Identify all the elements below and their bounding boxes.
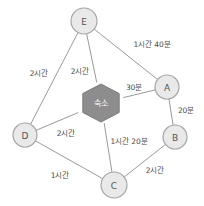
node-c[interactable]: C	[101, 172, 127, 198]
edge-weight-label-hub-a: 30분	[126, 84, 142, 92]
edge-e-d	[31, 33, 78, 125]
node-label-d: D	[22, 131, 29, 141]
node-label-c: C	[111, 181, 117, 191]
node-e[interactable]: E	[71, 8, 97, 34]
node-hub[interactable]: 숙소	[83, 84, 119, 122]
node-b[interactable]: B	[163, 125, 187, 149]
edge-weight-label-a-b: 20분	[178, 107, 194, 115]
edge-weight-label-hub-c: 1시간 20분	[111, 138, 148, 146]
edge-weight-label-e-d: 2시간	[30, 70, 48, 78]
edge-a-b	[169, 99, 173, 125]
hub-label: 숙소	[94, 99, 108, 108]
edge-hub-c	[104, 123, 112, 172]
node-d[interactable]: D	[13, 123, 37, 147]
edge-weight-label-e-a: 1시간 40분	[134, 41, 171, 49]
edge-weight-label-e-hub: 2시간	[71, 68, 89, 76]
edge-weight-label-d-c: 1시간	[51, 172, 69, 180]
edge-e-a	[94, 29, 157, 79]
node-label-b: B	[172, 133, 178, 143]
graph-diagram: EABCD숙소 1시간 40분2시간2시간30분20분2시간1시간 20분1시간…	[0, 0, 204, 206]
edge-weight-label-hub-d: 2시간	[57, 130, 75, 138]
graph-svg-layer: EABCD숙소	[0, 0, 204, 206]
node-label-e: E	[81, 17, 87, 27]
edge-weight-label-c-b: 2시간	[146, 167, 164, 175]
edge-hub-d	[36, 113, 78, 131]
node-label-a: A	[164, 83, 171, 93]
node-a[interactable]: A	[155, 75, 179, 99]
